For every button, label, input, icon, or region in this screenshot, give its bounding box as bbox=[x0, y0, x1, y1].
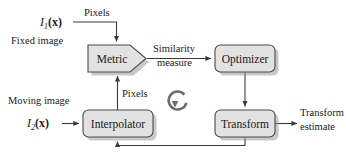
fixed-image-caption: Fixed image bbox=[11, 35, 64, 46]
moving-image-caption: Moving image bbox=[8, 95, 70, 106]
fixed-image-symbol: I1(x) bbox=[39, 15, 62, 31]
metric-label: Metric bbox=[97, 53, 128, 65]
registration-block-diagram: Metric Optimizer Interpolator Transform bbox=[0, 0, 346, 154]
optimizer-label: Optimizer bbox=[222, 53, 269, 66]
node-interpolator[interactable]: Interpolator bbox=[83, 110, 157, 141]
circular-arrow-icon bbox=[169, 91, 187, 109]
transform-estimate-label-line1: Transform bbox=[300, 107, 344, 118]
interpolator-label: Interpolator bbox=[91, 118, 145, 131]
moving-image-symbol-arg: (x) bbox=[35, 116, 49, 130]
node-transform[interactable]: Transform bbox=[215, 110, 279, 141]
transform-label: Transform bbox=[221, 118, 269, 130]
similarity-measure-label-line1: Similarity bbox=[153, 43, 196, 54]
transform-estimate-label-line2: estimate bbox=[300, 121, 335, 132]
moving-image-symbol: I2(x) bbox=[26, 116, 49, 132]
node-optimizer[interactable]: Optimizer bbox=[215, 45, 279, 76]
node-metric[interactable]: Metric bbox=[88, 45, 149, 76]
pixels-bottom-label: Pixels bbox=[122, 88, 148, 99]
diagram-canvas: Metric Optimizer Interpolator Transform bbox=[0, 0, 346, 154]
pixels-top-label: Pixels bbox=[84, 7, 110, 18]
fixed-image-symbol-arg: (x) bbox=[48, 15, 62, 29]
similarity-measure-label-line2: measure bbox=[157, 57, 192, 68]
edge-fixed-image-to-metric bbox=[73, 22, 117, 42]
